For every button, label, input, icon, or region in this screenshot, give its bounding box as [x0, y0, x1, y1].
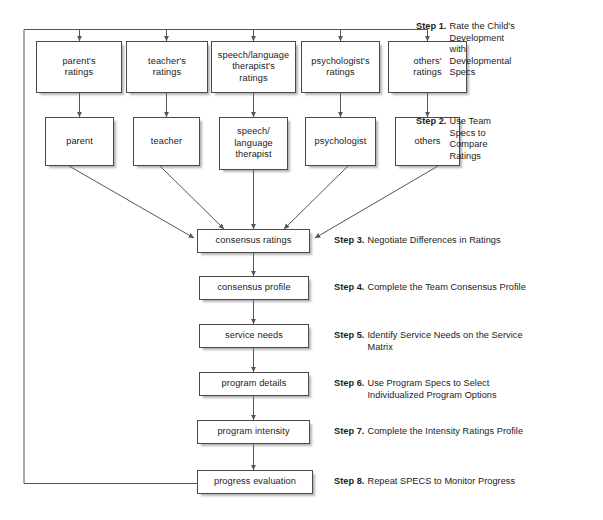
node-psychologist-label: psychologist	[312, 136, 370, 147]
flowchart-canvas: parent's ratings teacher's ratings speec…	[0, 0, 603, 520]
node-consensus-ratings-label: consensus ratings	[213, 235, 295, 246]
node-slt-ratings-label: speech/language therapist's ratings	[215, 50, 293, 84]
step-4: Step 4. Complete the Team Consensus Prof…	[334, 282, 599, 294]
node-slt-ratings[interactable]: speech/language therapist's ratings	[211, 41, 296, 93]
step-5-text: Identify Service Needs on the Service Ma…	[367, 330, 599, 353]
node-program-details[interactable]: program details	[199, 372, 309, 396]
node-parent-label: parent	[63, 136, 96, 147]
node-service-needs-label: service needs	[222, 330, 286, 341]
step-7-text: Complete the Intensity Ratings Profile	[367, 426, 599, 438]
link-psychologist-to-consensus	[284, 166, 348, 229]
step-7-label: Step 7.	[334, 426, 367, 438]
step-3-text: Negotiate Differences in Ratings	[367, 235, 599, 247]
step-3: Step 3. Negotiate Differences in Ratings	[334, 235, 599, 247]
node-progress-evaluation[interactable]: progress evaluation	[197, 470, 313, 494]
step-5: Step 5. Identify Service Needs on the Se…	[334, 330, 599, 353]
step-1-label: Step 1.	[416, 21, 449, 33]
node-program-details-label: program details	[219, 378, 290, 389]
step-1: Step 1. Rate the Child's Development wit…	[416, 21, 596, 79]
node-consensus-profile-label: consensus profile	[214, 282, 293, 293]
link-parent-to-consensus	[69, 166, 194, 238]
node-program-intensity-label: program intensity	[214, 426, 292, 437]
step-3-label: Step 3.	[334, 235, 367, 247]
step-2: Step 2. Use Team Specs to Compare Rating…	[416, 116, 596, 162]
step-1-text: Rate the Child's Development with Develo…	[449, 21, 596, 79]
step-7: Step 7. Complete the Intensity Ratings P…	[334, 426, 599, 438]
node-program-intensity[interactable]: program intensity	[197, 420, 310, 444]
node-psychologist[interactable]: psychologist	[305, 117, 376, 166]
node-consensus-profile[interactable]: consensus profile	[199, 276, 309, 300]
step-8-text: Repeat SPECS to Monitor Progress	[367, 476, 599, 488]
step-5-label: Step 5.	[334, 330, 367, 342]
step-4-label: Step 4.	[334, 282, 367, 294]
step-6: Step 6. Use Program Specs to Select Indi…	[334, 378, 599, 401]
node-parent[interactable]: parent	[45, 117, 114, 166]
link-teacher-to-consensus	[160, 166, 224, 229]
step-6-label: Step 6.	[334, 378, 367, 390]
step-2-text: Use Team Specs to Compare Ratings	[449, 116, 596, 162]
node-consensus-ratings[interactable]: consensus ratings	[197, 229, 310, 253]
node-progress-evaluation-label: progress evaluation	[211, 476, 299, 487]
link-others-to-consensus	[315, 166, 438, 238]
step-6-text: Use Program Specs to Select Individualiz…	[367, 378, 599, 401]
step-8-label: Step 8.	[334, 476, 367, 488]
node-slt-label: speech/ language therapist	[231, 126, 276, 160]
node-teacher-label: teacher	[148, 136, 185, 147]
node-teacher[interactable]: teacher	[133, 117, 200, 166]
node-parents-ratings[interactable]: parent's ratings	[36, 41, 122, 93]
node-slt[interactable]: speech/ language therapist	[219, 117, 288, 170]
node-psychologist-ratings-label: psychologist's ratings	[308, 56, 372, 79]
step-2-label: Step 2.	[416, 116, 449, 128]
node-teachers-ratings[interactable]: teacher's ratings	[126, 41, 208, 93]
node-psychologist-ratings[interactable]: psychologist's ratings	[301, 41, 380, 93]
node-parents-ratings-label: parent's ratings	[59, 56, 98, 79]
step-4-text: Complete the Team Consensus Profile	[367, 282, 599, 294]
step-8: Step 8. Repeat SPECS to Monitor Progress	[334, 476, 599, 488]
node-service-needs[interactable]: service needs	[199, 324, 309, 348]
node-teachers-ratings-label: teacher's ratings	[145, 56, 189, 79]
